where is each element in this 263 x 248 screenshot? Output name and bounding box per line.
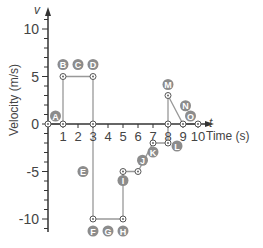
y-tick-label: 5: [31, 69, 39, 85]
data-point-center: [167, 142, 169, 144]
point-label-h: H: [120, 227, 127, 237]
point-label-n: N: [182, 101, 189, 111]
data-point-center: [182, 123, 184, 125]
y-tick-label: -10: [19, 211, 39, 227]
data-point-center: [197, 123, 199, 125]
data-point-center: [62, 76, 64, 78]
data-point-center: [167, 95, 169, 97]
x-tick-label: 10: [191, 129, 205, 144]
point-label-j: J: [140, 156, 145, 166]
x-tick-label: 1: [59, 129, 66, 144]
data-point-center: [122, 171, 124, 173]
point-label-f: F: [90, 227, 96, 237]
point-label-m: M: [164, 80, 172, 90]
point-label-k: K: [150, 148, 157, 158]
x-tick-label: 3: [89, 129, 96, 144]
data-point-center: [137, 171, 139, 173]
y-tick-label: 0: [31, 116, 39, 132]
point-label-l: L: [174, 142, 180, 152]
point-label-e: E: [80, 167, 86, 177]
point-label-d: D: [90, 60, 97, 70]
x-tick-label: 2: [74, 129, 81, 144]
y-axis-label: Velocity (m/s): [7, 64, 21, 136]
point-label-i: I: [122, 176, 125, 186]
x-axis-symbol: t: [209, 116, 213, 130]
x-tick-label: 5: [119, 129, 126, 144]
y-tick-label: 10: [23, 21, 39, 37]
data-point-center: [152, 142, 154, 144]
velocity-time-chart: 1050-5-1012345678910 ABCDEFGHIJKLMNO Vel…: [0, 0, 263, 248]
x-tick-label: 6: [134, 129, 141, 144]
x-axis-label: Time (s): [206, 129, 250, 143]
y-tick-label: -5: [27, 164, 40, 180]
point-label-c: C: [75, 60, 82, 70]
data-point-center: [47, 123, 49, 125]
y-axis-arrow-icon: [45, 7, 51, 16]
data-point-center: [62, 123, 64, 125]
y-axis-symbol: v: [34, 3, 41, 17]
data-point-center: [92, 218, 94, 220]
point-label-b: B: [60, 60, 67, 70]
point-label-a: A: [52, 112, 59, 122]
x-tick-label: 4: [104, 129, 111, 144]
data-point-center: [122, 218, 124, 220]
data-point-center: [167, 123, 169, 125]
data-point-center: [92, 123, 94, 125]
point-label-o: O: [187, 112, 194, 122]
axes: 1050-5-1012345678910: [19, 7, 214, 232]
point-label-g: G: [104, 227, 111, 237]
data-point-center: [92, 76, 94, 78]
